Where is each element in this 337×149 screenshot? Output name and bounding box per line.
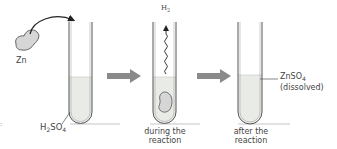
caption-line-1: during the bbox=[140, 127, 190, 136]
acid-label-so: SO bbox=[50, 122, 62, 132]
gas-bubble-trail-icon bbox=[165, 30, 168, 74]
after-reaction-caption: after the reaction bbox=[226, 127, 276, 145]
test-tube-after bbox=[238, 22, 278, 124]
zinc-label: Zn bbox=[16, 56, 27, 65]
product-note: (dissolved) bbox=[280, 83, 324, 92]
test-tube-during bbox=[153, 22, 176, 124]
reaction-diagram: : Zn H2SO4 H2 during the reaction ZnSO4 … bbox=[0, 0, 337, 149]
product-label-sub: 4 bbox=[302, 75, 306, 82]
acid-label: H2SO4 bbox=[40, 123, 66, 134]
zinc-piece-icon bbox=[16, 30, 39, 50]
caption-line-2: reaction bbox=[140, 136, 190, 145]
svg-text::: : bbox=[0, 120, 2, 127]
caption-line-1: after the bbox=[226, 127, 276, 136]
product-label: ZnSO4 (dissolved) bbox=[280, 72, 324, 92]
during-reaction-caption: during the reaction bbox=[140, 127, 190, 145]
process-arrow-icon bbox=[197, 69, 231, 83]
gas-label-sub: 2 bbox=[167, 7, 170, 13]
product-label-main: ZnSO bbox=[280, 72, 302, 81]
test-tube-before bbox=[62, 22, 92, 124]
zinc-dissolving-icon bbox=[159, 92, 172, 112]
hydrogen-gas-label: H2 bbox=[161, 4, 170, 15]
acid-label-sub2: 4 bbox=[62, 126, 66, 133]
caption-line-2: reaction bbox=[226, 136, 276, 145]
process-arrow-icon bbox=[107, 69, 141, 83]
